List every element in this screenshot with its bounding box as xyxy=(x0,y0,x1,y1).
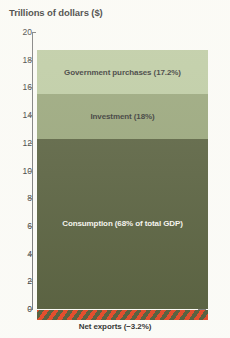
y-tick-mark xyxy=(28,198,32,199)
y-axis-line xyxy=(32,32,33,310)
y-tick-mark xyxy=(28,309,32,310)
y-tick-mark xyxy=(28,115,32,116)
y-tick-mark xyxy=(28,87,32,88)
net-exports-label: Net exports (−3.2%) xyxy=(0,322,230,331)
y-tick-mark xyxy=(28,281,32,282)
bar-segment-investment: Investment (18%) xyxy=(37,94,208,138)
y-tick-mark xyxy=(28,254,32,255)
chart-figure: Trillions of dollars ($) 201816141210864… xyxy=(0,0,230,338)
y-tick-mark xyxy=(28,171,32,172)
bar-segment-consumption: Consumption (68% of total GDP) xyxy=(37,139,208,309)
y-tick-mark xyxy=(28,226,32,227)
bar-segment-label: Government purchases (17.2%) xyxy=(64,68,181,77)
y-tick-mark xyxy=(28,143,32,144)
net-exports-band xyxy=(37,310,208,320)
y-axis-top-cap xyxy=(32,32,36,33)
plot-area: 20181614121086420 Consumption (68% of to… xyxy=(0,0,230,338)
y-tick-label: 20 xyxy=(6,27,32,37)
bar-segment-label: Investment (18%) xyxy=(90,112,154,121)
bar-segment-government-purchases: Government purchases (17.2%) xyxy=(37,50,208,94)
bar-segment-label: Consumption (68% of total GDP) xyxy=(62,219,183,228)
y-tick-mark xyxy=(28,60,32,61)
